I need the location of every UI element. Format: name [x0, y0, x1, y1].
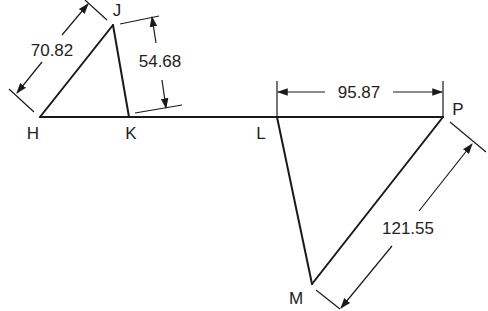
dimension-pm-label: 121.55: [382, 219, 434, 238]
point-label-l: L: [256, 124, 265, 143]
point-label-j: J: [113, 1, 122, 20]
dimension-jk-label: 54.68: [139, 52, 182, 71]
dimension-lp-label: 95.87: [338, 83, 381, 102]
edge-mp: [312, 117, 443, 284]
point-label-h: H: [27, 124, 39, 143]
edge-hj: [40, 25, 113, 117]
edge-jk: [113, 25, 129, 117]
edge-lm: [277, 117, 312, 284]
point-label-k: K: [125, 124, 137, 143]
dimension-hj-label: 70.82: [31, 41, 74, 60]
dimension-pm: [316, 122, 486, 309]
point-label-m: M: [289, 289, 303, 308]
point-label-p: P: [452, 100, 463, 119]
geometry-diagram: 70.82 54.68 95.87 121.55 H J K L M P: [0, 0, 488, 311]
